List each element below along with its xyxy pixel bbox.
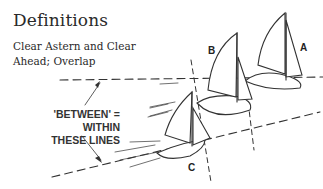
wake-lines-b bbox=[150, 83, 178, 116]
boat-label-b: B bbox=[208, 45, 215, 56]
boat-label-c: C bbox=[188, 162, 195, 173]
between-callout: 'BETWEEN' = WITHIN THESE LINES bbox=[26, 108, 120, 147]
boat-label-a: A bbox=[300, 42, 307, 53]
sailing-diagram bbox=[0, 0, 323, 189]
callout-line-1: 'BETWEEN' = WITHIN bbox=[26, 108, 120, 134]
boat-a bbox=[245, 13, 302, 89]
boat-b bbox=[197, 33, 252, 115]
callout-line-2: THESE LINES bbox=[26, 134, 120, 147]
